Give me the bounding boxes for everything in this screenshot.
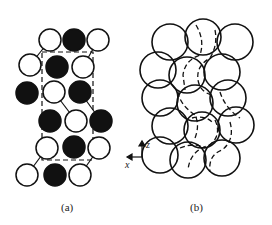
z-axis-label: z bbox=[146, 139, 150, 150]
open-atom bbox=[87, 29, 109, 51]
filled-atom bbox=[44, 164, 66, 186]
filled-atom bbox=[16, 82, 38, 104]
open-atom bbox=[36, 137, 58, 159]
filled-atom bbox=[63, 29, 85, 51]
panel-b-circles bbox=[140, 19, 254, 178]
filled-atom bbox=[90, 110, 112, 132]
open-atom bbox=[69, 164, 91, 186]
open-atom bbox=[65, 110, 87, 132]
open-atom bbox=[39, 29, 61, 51]
panel-a-label: (a) bbox=[61, 201, 73, 213]
open-atom bbox=[88, 137, 110, 159]
filled-atom bbox=[63, 136, 85, 158]
filled-atom bbox=[69, 81, 91, 103]
panel-b-label: (b) bbox=[190, 201, 203, 213]
open-atom bbox=[16, 164, 38, 186]
open-atom bbox=[72, 56, 94, 78]
crystal-structure-figure bbox=[0, 0, 272, 225]
filled-atom bbox=[39, 110, 61, 132]
panel-a-atoms bbox=[16, 29, 112, 186]
open-atom bbox=[19, 54, 41, 76]
open-atom bbox=[43, 81, 65, 103]
filled-atom bbox=[46, 56, 68, 78]
x-axis-label: x bbox=[125, 159, 129, 170]
